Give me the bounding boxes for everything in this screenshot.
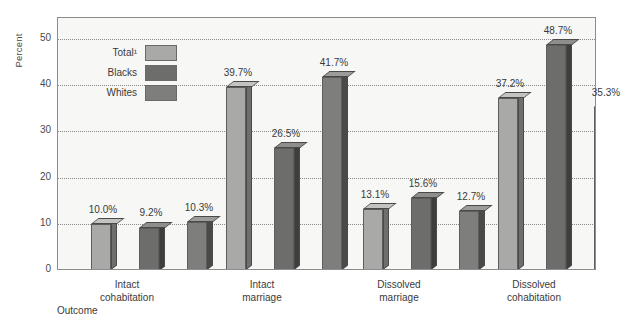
bar-side-face [518, 93, 524, 270]
bar-front-face [546, 45, 566, 270]
x-category-label-line: marriage [202, 291, 322, 304]
x-category-label-line: cohabitation [474, 291, 594, 304]
bar-side-face [342, 73, 348, 270]
bar-front-face [459, 211, 479, 270]
bar [363, 209, 383, 270]
bar [411, 198, 431, 270]
legend-label-total: Total¹ [77, 47, 137, 58]
legend-swatch-whites [145, 85, 177, 101]
y-tick-label: 20 [29, 171, 51, 182]
bar-front-face [187, 222, 207, 270]
y-tick-label: 40 [29, 78, 51, 89]
x-category-label-line: Dissolved [339, 278, 459, 291]
bar-value-label: 26.5% [263, 128, 309, 139]
y-tick-label: 30 [29, 124, 51, 135]
bar-top-face [411, 192, 445, 198]
bar [274, 148, 294, 270]
bar-value-label: 39.7% [215, 67, 261, 78]
bar-top-face [139, 222, 173, 228]
x-category-label: Dissolvedmarriage [339, 278, 459, 304]
bar-side-face [431, 193, 437, 270]
bar-value-label: 13.1% [352, 189, 398, 200]
bar [594, 107, 596, 270]
bar-value-label: 41.7% [311, 57, 357, 68]
bar-front-face [363, 209, 383, 270]
bar [187, 222, 207, 270]
bar-side-face [207, 218, 213, 270]
bar [139, 228, 159, 271]
bar [322, 77, 342, 270]
plot-area [57, 17, 596, 270]
bar-value-label: 10.0% [80, 204, 126, 215]
bar-front-face [594, 107, 596, 270]
x-category-label-line: Intact [202, 278, 322, 291]
bar-side-face [246, 82, 252, 270]
x-axis-title: Outcome [57, 305, 98, 316]
x-category-label-line: Dissolved [474, 278, 594, 291]
legend-label-blacks: Blacks [77, 67, 137, 78]
bar [498, 98, 518, 270]
bar-side-face [159, 223, 165, 270]
bar-top-face [322, 71, 356, 77]
bar-top-face [498, 92, 532, 98]
y-tick-label: 0 [29, 263, 51, 274]
legend-swatch-total [145, 45, 177, 61]
bar-value-label: 48.7% [535, 25, 581, 36]
bar-top-face [274, 142, 308, 148]
legend-swatch-blacks [145, 65, 177, 81]
bar-top-face [459, 205, 493, 211]
x-category-label: Dissolvedcohabitation [474, 278, 594, 304]
bar-front-face [498, 98, 518, 270]
bar-top-face [363, 203, 397, 209]
bar-value-label: 35.3% [583, 87, 625, 98]
bar-front-face [91, 224, 111, 270]
bar-top-face [187, 216, 221, 222]
bar-side-face [294, 143, 300, 270]
bar-side-face [566, 40, 572, 270]
bar [459, 211, 479, 270]
y-tick-label: 10 [29, 217, 51, 228]
x-category-label: Intactmarriage [202, 278, 322, 304]
bar-top-face [546, 39, 580, 45]
bar-front-face [322, 77, 342, 270]
bar-value-label: 37.2% [487, 78, 533, 89]
bar-top-face [594, 101, 596, 107]
bar-side-face [111, 219, 117, 270]
bar [91, 224, 111, 270]
bar-value-label: 12.7% [448, 191, 494, 202]
x-category-label-line: Intact [67, 278, 187, 291]
x-category-label-line: marriage [339, 291, 459, 304]
bar-value-label: 10.3% [176, 202, 222, 213]
bar-value-label: 15.6% [400, 178, 446, 189]
bar [546, 45, 566, 270]
bar-side-face [479, 207, 485, 270]
bar-front-face [226, 87, 246, 270]
bar-front-face [411, 198, 431, 270]
bar [226, 87, 246, 270]
x-category-label-line: cohabitation [67, 291, 187, 304]
y-axis-title: Percent [13, 16, 24, 86]
y-tick-label: 50 [29, 32, 51, 43]
bar-value-label: 9.2% [128, 207, 174, 218]
gridline [58, 39, 595, 40]
legend-label-whites: Whites [77, 87, 137, 98]
bar-front-face [274, 148, 294, 270]
bar-front-face [139, 228, 159, 271]
x-category-label: Intactcohabitation [67, 278, 187, 304]
bar-side-face [383, 205, 389, 270]
